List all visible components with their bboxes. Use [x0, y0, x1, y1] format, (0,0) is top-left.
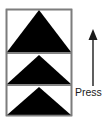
press-up-instruction-diagram: Press	[0, 0, 112, 124]
press-label: Press	[75, 86, 102, 98]
diagram-canvas: Press	[0, 0, 112, 124]
up-arrow-head-icon	[89, 29, 98, 40]
